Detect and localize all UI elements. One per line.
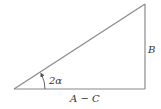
angle-label: 2α bbox=[48, 75, 62, 86]
right-triangle-diagram: 2α B A − C bbox=[0, 0, 161, 109]
vertical-side-label: B bbox=[147, 44, 155, 55]
angle-arc-icon bbox=[42, 75, 46, 90]
hypotenuse bbox=[14, 4, 145, 89]
base-side-label: A − C bbox=[69, 93, 100, 104]
